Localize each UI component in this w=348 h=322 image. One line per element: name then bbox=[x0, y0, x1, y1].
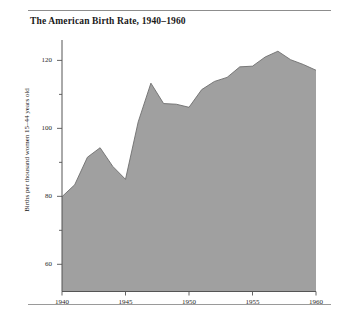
y-tick-label-100: 100 bbox=[34, 124, 52, 132]
x-tick-label-1960: 1960 bbox=[302, 298, 330, 306]
y-tick-label-60: 60 bbox=[34, 260, 52, 268]
y-tick-label-80: 80 bbox=[34, 192, 52, 200]
y-axis-ticks bbox=[57, 60, 62, 264]
area-chart-plot bbox=[0, 0, 348, 322]
x-axis-ticks bbox=[62, 292, 316, 296]
figure: The American Birth Rate, 1940–1960 Birth… bbox=[0, 0, 348, 322]
x-tick-label-1955: 1955 bbox=[239, 298, 267, 306]
birth-rate-area bbox=[62, 51, 316, 291]
x-tick-label-1950: 1950 bbox=[175, 298, 203, 306]
x-tick-label-1945: 1945 bbox=[112, 298, 140, 306]
y-tick-label-120: 120 bbox=[34, 56, 52, 64]
x-tick-label-1940: 1940 bbox=[48, 298, 76, 306]
